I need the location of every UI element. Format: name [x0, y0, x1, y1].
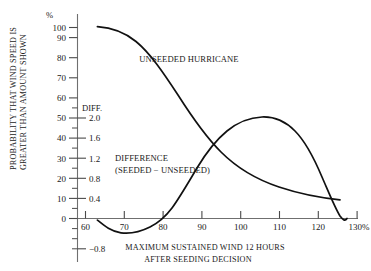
x-tick-label: 70: [120, 222, 130, 232]
left-tick-label: 30: [57, 154, 67, 164]
x-tick-label: 60: [81, 222, 91, 232]
x-tick-label: 120: [312, 222, 326, 232]
x-axis-title-line2: AFTER SEEDING DECISION: [144, 255, 252, 264]
x-tick-label: 110: [273, 222, 287, 232]
x-axis-title-line1: MAXIMUM SUSTAINED WIND 12 HOURS: [125, 243, 285, 252]
x-axis-tick-labels: 60 70 80 90 100 110 120 130%: [81, 222, 370, 232]
x-tick-label: 90: [197, 222, 207, 232]
diff-tick-label: 0.4: [89, 194, 101, 204]
diff-axis-tick-labels: 2.0 1.6 1.2 0.8 0.4 −0.8: [89, 113, 106, 254]
x-axis-ticks: [86, 211, 358, 219]
difference-curve-annotation-line1: DIFFERENCE: [115, 153, 168, 163]
left-tick-label: 50: [57, 113, 67, 123]
x-tick-label: 130%: [349, 222, 371, 232]
left-tick-label: 100: [53, 23, 67, 33]
left-tick-label: 80: [57, 53, 67, 63]
diff-tick-label: 0.8: [89, 174, 101, 184]
left-tick-label: 70: [57, 73, 67, 83]
percent-unit-label: %: [46, 10, 53, 20]
left-axis-tick-labels: 100 90 80 70 60 50 40 30 20 10 0: [53, 23, 67, 224]
left-tick-label: 20: [57, 174, 67, 184]
left-tick-label: 0: [62, 214, 67, 224]
chart-svg: PROBABILITY THAT WIND SPEED IS GREATER T…: [0, 0, 371, 271]
y-axis-title-line2: GREATER THAN AMOUNT SHOWN: [19, 34, 28, 170]
difference-curve: [97, 117, 347, 233]
chart-container: PROBABILITY THAT WIND SPEED IS GREATER T…: [0, 0, 371, 271]
left-axis-ticks: [69, 28, 78, 219]
unseeded-curve-annotation: UNSEEDED HURRICANE: [139, 54, 238, 64]
y-axis-title-line1: PROBABILITY THAT WIND SPEED IS: [9, 27, 18, 170]
diff-tick-label: 2.0: [89, 113, 101, 123]
left-tick-label: 40: [57, 133, 67, 143]
diff-tick-label: 1.2: [89, 154, 100, 164]
left-tick-label: 60: [57, 93, 67, 103]
y-axis-title-group: PROBABILITY THAT WIND SPEED IS GREATER T…: [9, 27, 28, 170]
x-tick-label: 100: [234, 222, 248, 232]
diff-axis-header: DIFF.: [82, 103, 102, 113]
left-tick-label: 10: [57, 194, 67, 204]
diff-tick-label: −0.8: [89, 244, 106, 254]
diff-tick-label: 1.6: [89, 133, 101, 143]
difference-curve-annotation-line2: (SEEDED − UNSEEDED): [115, 165, 210, 175]
x-tick-label: 80: [159, 222, 169, 232]
left-tick-label: 90: [57, 33, 67, 43]
